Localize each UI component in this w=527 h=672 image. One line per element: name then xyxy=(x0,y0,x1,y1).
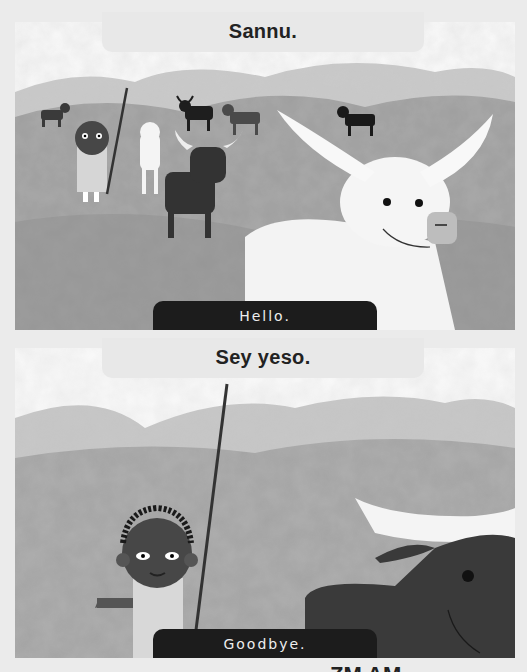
next-page-title-fragment: ZM AM xyxy=(330,660,410,672)
panel-1-title: Sannu. xyxy=(102,12,424,52)
scene-goodbye xyxy=(15,348,515,658)
illustration-panel-1 xyxy=(15,22,515,330)
panel-1-caption: Hello. xyxy=(153,301,377,330)
panel-2-caption: Goodbye. xyxy=(153,629,377,658)
panel-2-title: Sey yeso. xyxy=(102,338,424,378)
scene-hello xyxy=(15,22,515,330)
illustration-panel-2 xyxy=(15,348,515,658)
